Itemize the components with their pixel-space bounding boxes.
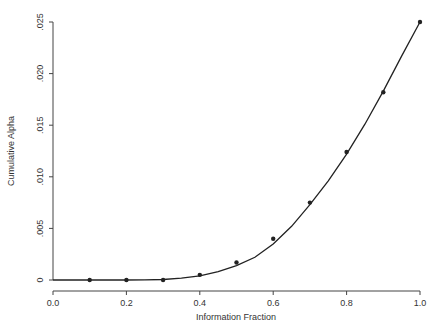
data-point xyxy=(198,273,202,277)
axes xyxy=(53,22,420,291)
x-tick-label: 0.2 xyxy=(120,298,133,308)
data-point xyxy=(234,260,238,264)
data-points xyxy=(88,20,423,282)
y-tick-label: .025 xyxy=(35,13,45,31)
y-tick-label: 0 xyxy=(35,277,45,282)
data-point xyxy=(344,150,348,154)
x-axis-label: Information Fraction xyxy=(196,312,276,322)
data-point xyxy=(88,278,92,282)
y-ticks: 0.005.010.015.020.025 xyxy=(35,13,53,282)
data-point xyxy=(418,20,422,24)
y-tick-label: .020 xyxy=(35,65,45,83)
y-tick-label: .015 xyxy=(35,116,45,134)
y-axis-label: Cumulative Alpha xyxy=(6,116,16,186)
data-point xyxy=(271,237,275,241)
x-tick-label: 1.0 xyxy=(414,298,427,308)
data-point xyxy=(161,278,165,282)
data-point xyxy=(381,90,385,94)
y-tick-label: .010 xyxy=(35,168,45,186)
x-tick-label: 0.8 xyxy=(340,298,353,308)
data-point xyxy=(124,278,128,282)
spending-function-curve xyxy=(53,22,420,280)
x-tick-label: 0.0 xyxy=(47,298,60,308)
x-ticks: 0.00.20.40.60.81.0 xyxy=(47,291,427,308)
y-tick-label: .005 xyxy=(35,220,45,238)
data-point xyxy=(308,200,312,204)
x-tick-label: 0.6 xyxy=(267,298,280,308)
cumulative-alpha-chart: 0.005.010.015.020.025 0.00.20.40.60.81.0… xyxy=(0,0,448,325)
x-tick-label: 0.4 xyxy=(194,298,207,308)
